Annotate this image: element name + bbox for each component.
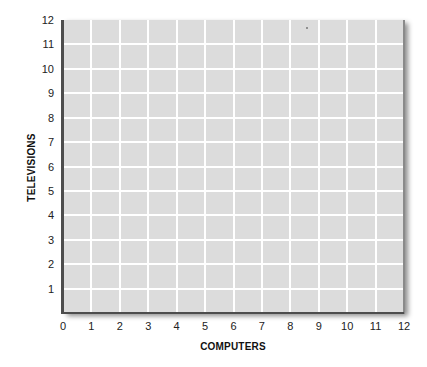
x-tick-label: 1 (79, 320, 103, 332)
gridline-horizontal (63, 43, 404, 45)
stray-mark (306, 27, 308, 29)
y-axis-label: TELEVISIONS (26, 118, 37, 218)
x-tick-label: 6 (222, 320, 246, 332)
gridline-horizontal (63, 117, 404, 119)
x-tick-label: 5 (193, 320, 217, 332)
gridline-horizontal (63, 288, 404, 290)
y-tick-label: 9 (30, 87, 54, 99)
y-tick-label: 11 (30, 38, 54, 50)
y-tick-label: 1 (30, 283, 54, 295)
plot-area (63, 20, 404, 313)
gridline-horizontal (63, 141, 404, 143)
gridline-horizontal (63, 68, 404, 70)
x-tick-label: 8 (278, 320, 302, 332)
y-axis-line (61, 20, 64, 314)
gridline-horizontal (63, 166, 404, 168)
gridline-horizontal (63, 214, 404, 216)
gridline-horizontal (63, 190, 404, 192)
x-tick-label: 12 (392, 320, 416, 332)
gridline-horizontal (63, 263, 404, 265)
x-tick-label: 11 (364, 320, 388, 332)
x-tick-label: 4 (165, 320, 189, 332)
x-tick-label: 2 (108, 320, 132, 332)
y-tick-label: 10 (30, 63, 54, 75)
x-tick-label: 7 (250, 320, 274, 332)
plot-right-edge (403, 20, 405, 314)
x-axis-line (61, 312, 404, 314)
production-possibilities-grid-chart: 0123456789101112 123456789101112 COMPUTE… (0, 0, 427, 367)
x-tick-label: 9 (307, 320, 331, 332)
x-tick-label: 0 (51, 320, 75, 332)
x-axis-label: COMPUTERS (183, 341, 283, 352)
x-tick-label: 10 (335, 320, 359, 332)
x-tick-label: 3 (136, 320, 160, 332)
gridline-horizontal (63, 239, 404, 241)
gridline-horizontal (63, 92, 404, 94)
y-tick-label: 3 (30, 234, 54, 246)
y-tick-label: 2 (30, 258, 54, 270)
y-tick-label: 12 (30, 14, 54, 26)
